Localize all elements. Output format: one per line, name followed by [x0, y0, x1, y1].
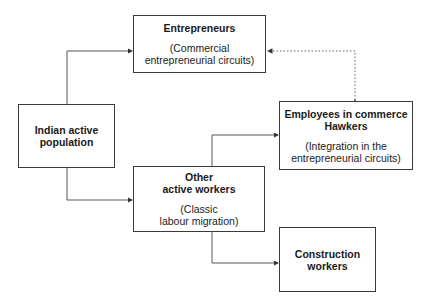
node-construction-workers: Construction workers	[279, 227, 376, 292]
node-title: Indian active population	[35, 124, 99, 148]
node-title: Entrepreneurs	[164, 22, 236, 34]
node-title: Employees in commerce Hawkers	[284, 108, 407, 132]
node-entrepreneurs: Entrepreneurs (Commercial entrepreneuria…	[133, 15, 266, 73]
node-title: Construction workers	[295, 248, 360, 272]
node-title: Other active workers	[163, 171, 236, 195]
edge-indian-entrepreneurs	[67, 51, 132, 104]
node-subtitle: (Commercial entrepreneurial circuits)	[145, 42, 255, 66]
node-subtitle: (Integration in the entrepreneurial circ…	[291, 140, 401, 164]
node-indian-active-population: Indian active population	[18, 104, 115, 168]
node-other-active-workers: Other active workers (Classic labour mig…	[133, 166, 265, 232]
edge-employees-entrepreneurs	[268, 51, 355, 100]
node-subtitle: (Classic labour migration)	[160, 203, 239, 227]
edge-other-construction	[212, 232, 278, 263]
edge-other-employees	[212, 135, 278, 166]
node-employees-in-commerce: Employees in commerce Hawkers (Integrati…	[279, 101, 413, 170]
edge-indian-other	[67, 168, 132, 200]
